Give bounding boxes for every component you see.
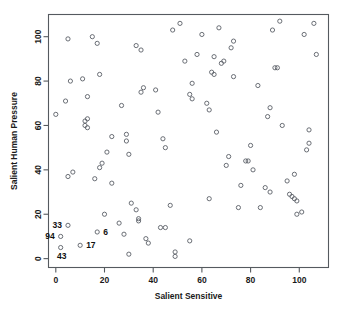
data-point xyxy=(127,252,131,256)
point-label-6: 6 xyxy=(103,227,108,237)
data-point xyxy=(312,21,316,25)
plot-canvas: 020406080100Salient Sensitive02040608010… xyxy=(0,0,345,312)
data-point xyxy=(268,106,272,110)
y-tick-label: 40 xyxy=(34,165,44,175)
data-point xyxy=(270,28,274,32)
data-point xyxy=(168,203,172,207)
data-point xyxy=(98,166,102,170)
data-point xyxy=(68,79,72,83)
data-point xyxy=(173,254,177,258)
data-point xyxy=(124,139,128,143)
y-tick-label: 60 xyxy=(34,120,44,130)
data-point xyxy=(117,221,121,225)
data-point xyxy=(144,237,148,241)
data-point xyxy=(59,234,63,238)
y-tick-label: 100 xyxy=(34,29,44,43)
data-point xyxy=(95,230,99,234)
data-point xyxy=(141,86,145,90)
data-point xyxy=(59,245,63,249)
data-point xyxy=(66,174,70,178)
data-point xyxy=(231,39,235,43)
data-point xyxy=(300,210,304,214)
x-tick-label: 60 xyxy=(197,275,207,285)
data-point xyxy=(156,110,160,114)
data-point xyxy=(190,81,194,85)
scatter-plot-figure: 020406080100Salient Sensitive02040608010… xyxy=(0,0,345,312)
data-point xyxy=(268,190,272,194)
data-point xyxy=(227,154,231,158)
data-point xyxy=(119,103,123,107)
data-point xyxy=(295,212,299,216)
data-point xyxy=(154,88,158,92)
data-point xyxy=(207,197,211,201)
data-point xyxy=(314,52,318,56)
data-point xyxy=(124,132,128,136)
data-point xyxy=(93,177,97,181)
y-tick-label: 0 xyxy=(34,256,44,261)
data-point xyxy=(71,170,75,174)
data-point xyxy=(66,223,70,227)
data-point xyxy=(263,186,267,190)
plot-frame xyxy=(49,15,329,268)
data-point xyxy=(161,137,165,141)
data-point xyxy=(224,163,228,167)
data-point xyxy=(229,46,233,50)
data-point xyxy=(54,112,58,116)
x-tick-label: 80 xyxy=(246,275,256,285)
data-point xyxy=(102,212,106,216)
data-point xyxy=(127,152,131,156)
data-point xyxy=(188,239,192,243)
data-points xyxy=(54,19,319,258)
data-point xyxy=(266,114,270,118)
data-point xyxy=(251,168,255,172)
point-label-94: 94 xyxy=(45,231,55,241)
data-point xyxy=(110,181,114,185)
point-label-33: 33 xyxy=(53,220,63,230)
data-point xyxy=(95,41,99,45)
data-point xyxy=(258,205,262,209)
data-point xyxy=(212,55,216,59)
data-point xyxy=(100,161,104,165)
y-tick-label: 20 xyxy=(34,209,44,219)
y-axis-title: Salient Human Pressure xyxy=(9,92,19,190)
data-point xyxy=(105,150,109,154)
x-tick-label: 0 xyxy=(53,275,58,285)
data-point xyxy=(278,19,282,23)
data-point xyxy=(78,243,82,247)
data-point xyxy=(171,28,175,32)
data-point xyxy=(90,35,94,39)
data-point xyxy=(163,146,167,150)
data-point xyxy=(214,130,218,134)
data-point xyxy=(134,43,138,47)
data-point xyxy=(285,179,289,183)
data-point xyxy=(85,95,89,99)
x-tick-label: 40 xyxy=(148,275,158,285)
data-point xyxy=(236,205,240,209)
x-tick-label: 100 xyxy=(292,275,306,285)
x-axis: 020406080100Salient Sensitive xyxy=(53,268,306,301)
data-point xyxy=(188,92,192,96)
data-point xyxy=(134,208,138,212)
data-point xyxy=(292,172,296,176)
data-point xyxy=(248,143,252,147)
y-axis: 020406080100Salient Human Pressure xyxy=(9,29,49,261)
data-point xyxy=(195,52,199,56)
data-point xyxy=(302,32,306,36)
data-point xyxy=(183,59,187,63)
data-point xyxy=(163,225,167,229)
data-point xyxy=(304,148,308,152)
x-axis-title: Salient Sensitive xyxy=(155,291,223,301)
data-point xyxy=(231,75,235,79)
data-point xyxy=(63,99,67,103)
point-label-43: 43 xyxy=(57,251,67,261)
data-point xyxy=(66,37,70,41)
data-point xyxy=(139,90,143,94)
data-point xyxy=(200,32,204,36)
data-point xyxy=(280,123,284,127)
data-point xyxy=(207,108,211,112)
data-point xyxy=(239,183,243,187)
x-tick-label: 20 xyxy=(100,275,110,285)
point-labels: 339443176 xyxy=(45,220,108,260)
point-label-17: 17 xyxy=(86,240,96,250)
data-point xyxy=(178,21,182,25)
